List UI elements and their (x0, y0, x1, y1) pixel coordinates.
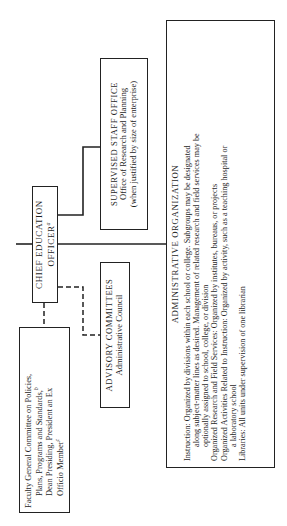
admin-line: optionally assigned to school, college, … (201, 285, 210, 461)
faculty-general-committee-box: Faculty General Committee on Policies, P… (19, 327, 70, 513)
admin-line: Organized Activities Related to Instruct… (220, 146, 229, 461)
faculty-line4-wrap: Officio Memberc (54, 439, 65, 508)
admin-line: Instruction: Organized by divisions with… (183, 145, 192, 461)
admin-line: a laboratory school (229, 384, 238, 461)
faculty-footnote-b: b (33, 387, 39, 390)
faculty-line2-wrap: Plans, Programs and Standards,b (33, 387, 44, 508)
chief-education-officer-box: CHIEF EDUCATION OFFICERa (32, 186, 58, 303)
faculty-footnote-c: c (54, 439, 60, 442)
line-ceo-to-supervised (58, 147, 100, 215)
ceo-footnote: a (45, 222, 51, 225)
admin-line: Libraries: All units under supervision o… (238, 286, 247, 461)
admin-title: ADMINISTRATIVE ORGANIZATION (171, 165, 181, 324)
advisory-line1: Administrative Council (115, 295, 125, 376)
faculty-line3: Dean Presiding, President an Ex (45, 388, 54, 508)
ceo-title-line1: CHIEF EDUCATION (34, 200, 44, 289)
supervised-staff-office-box: SUPERVISED STAFF OFFICE Office of Resear… (100, 58, 148, 230)
ceo-title-line2: OFFICER (46, 225, 56, 266)
faculty-line2: Plans, Programs and Standards, (35, 390, 44, 496)
supervised-line2: (when justified by size of enterprise) (129, 81, 139, 207)
advisory-committees-box: ADVISORY COMMITTEES Administrative Counc… (100, 262, 130, 408)
faculty-line1: Faculty General Committee on Policies, (24, 374, 33, 508)
admin-line: Organized Research and Field Services: O… (210, 184, 219, 461)
administrative-organization-box: ADMINISTRATIVE ORGANIZATION Instruction:… (166, 20, 275, 468)
org-chart: CHIEF EDUCATION OFFICERa SUPERVISED STAF… (0, 0, 287, 526)
faculty-line4: Officio Member (56, 442, 65, 497)
ceo-title-line2-wrap: OFFICERa (45, 222, 56, 266)
admin-line: along subject-matter lines as desired. M… (192, 133, 201, 461)
